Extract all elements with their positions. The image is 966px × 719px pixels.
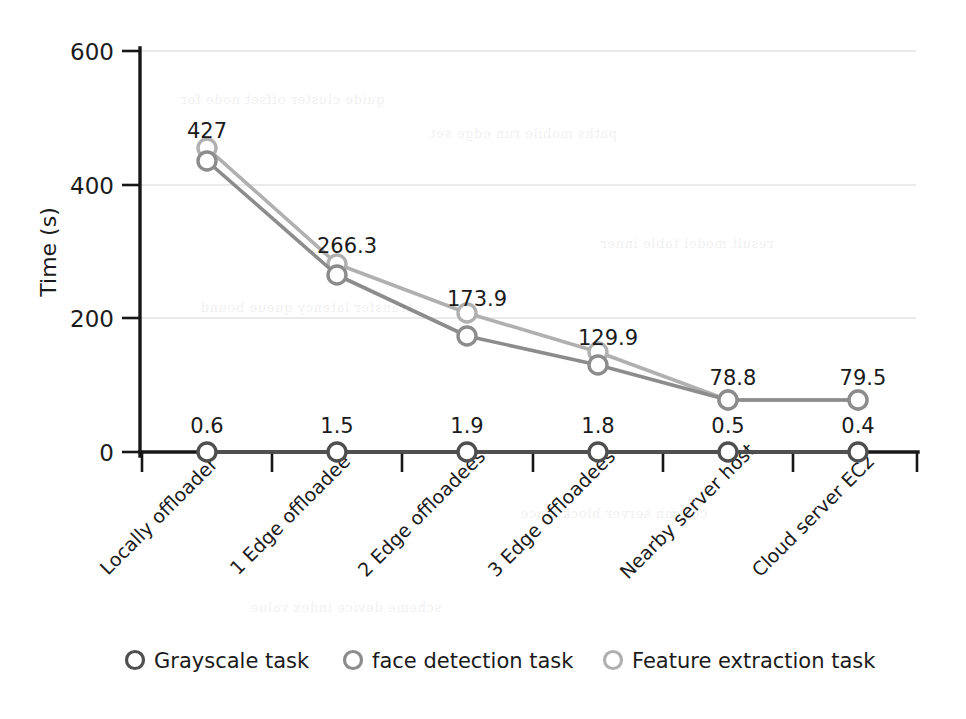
- chart-legend: Grayscale task face detection task Featu…: [127, 649, 877, 673]
- marker-grayscale-5: [849, 443, 867, 461]
- y-tick-label-0: 0: [99, 440, 114, 466]
- legend-label-grayscale: Grayscale task: [154, 649, 310, 673]
- baseline-label-2: 1.9: [450, 414, 483, 438]
- legend-label-feature-extraction: Feature extraction task: [632, 649, 876, 673]
- y-tick-label-200: 200: [70, 306, 114, 332]
- series-line-feature-extraction: [207, 148, 858, 400]
- y-axis-title: Time (s): [36, 207, 61, 297]
- series-face-detection-task: [198, 152, 867, 409]
- marker-face-detection-1: [328, 266, 346, 284]
- baseline-label-4: 0.5: [711, 414, 744, 438]
- value-label-1: 266.3: [317, 234, 377, 258]
- legend-marker-icon-face-detection: [345, 652, 362, 669]
- marker-face-detection-5: [849, 391, 867, 409]
- value-label-5: 79.5: [840, 366, 887, 390]
- legend-item-grayscale-task[interactable]: Grayscale task: [127, 649, 311, 673]
- x-tick-label-4: Nearby server host: [615, 439, 759, 583]
- x-tick-label-1: 1 Edge offloadee: [225, 450, 354, 579]
- legend-label-face-detection: face detection task: [372, 649, 574, 673]
- chart-svg: 600 400 200 0 Time (s) Locally offloader…: [0, 0, 966, 719]
- marker-grayscale-2: [458, 443, 476, 461]
- value-label-2: 173.9: [447, 287, 507, 311]
- legend-item-face-detection-task[interactable]: face detection task: [345, 649, 575, 673]
- marker-face-detection-2: [458, 327, 476, 345]
- legend-marker-icon-feature-extraction: [605, 652, 622, 669]
- value-labels-baseline: 0.6 1.5 1.9 1.8 0.5 0.4: [190, 414, 874, 438]
- value-label-3: 129.9: [578, 326, 638, 350]
- series-line-face-detection: [207, 161, 858, 400]
- marker-face-detection-0: [198, 152, 216, 170]
- marker-face-detection-4: [719, 391, 737, 409]
- x-tick-label-2: 2 Edge offloadees: [353, 445, 489, 581]
- value-labels-upper: 427 266.3 173.9 129.9 78.8 79.5: [187, 119, 886, 390]
- x-tick-label-5: Cloud server EC2: [747, 449, 878, 580]
- x-axis: Locally offloader 1 Edge offloadee 2 Edg…: [95, 439, 918, 583]
- y-tick-label-600: 600: [70, 39, 114, 65]
- marker-grayscale-1: [328, 443, 346, 461]
- x-tick-label-0: Locally offloader: [95, 452, 221, 578]
- y-tick-label-400: 400: [70, 173, 114, 199]
- baseline-label-3: 1.8: [581, 414, 614, 438]
- value-label-4: 78.8: [710, 366, 757, 390]
- baseline-label-1: 1.5: [320, 414, 353, 438]
- marker-grayscale-3: [589, 443, 607, 461]
- x-tick-label-3: 3 Edge offloadees: [483, 445, 619, 581]
- value-label-0: 427: [187, 119, 227, 143]
- baseline-label-0: 0.6: [190, 414, 223, 438]
- marker-face-detection-3: [589, 356, 607, 374]
- y-axis: 600 400 200 0 Time (s): [36, 39, 140, 466]
- chart-figure: guide cluster offset node for paths mobi…: [0, 0, 966, 719]
- legend-item-feature-extraction-task[interactable]: Feature extraction task: [605, 649, 877, 673]
- series-feature-extraction-task: [198, 139, 867, 409]
- marker-grayscale-0: [198, 443, 216, 461]
- gridlines: [140, 51, 916, 318]
- baseline-label-5: 0.4: [841, 414, 874, 438]
- marker-grayscale-4: [719, 443, 737, 461]
- legend-marker-icon-grayscale: [127, 652, 144, 669]
